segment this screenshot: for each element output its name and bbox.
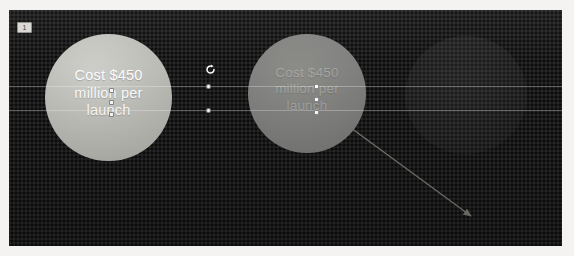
slide-number-badge: 1: [17, 22, 32, 33]
slide-canvas[interactable]: Cost $450 million per launch Cost $450 m…: [9, 10, 562, 246]
text-handle-bottom[interactable]: [109, 112, 114, 117]
cost-ellipse-ghost-text: Cost $450 million per launch: [248, 65, 366, 114]
page-background: Cost $450 million per launch Cost $450 m…: [0, 0, 574, 256]
cost-ellipse-ghost[interactable]: Cost $450 million per launch: [248, 34, 366, 153]
selection-handle-left-bottom[interactable]: [206, 108, 211, 113]
selection-handle-right-bottom[interactable]: [314, 110, 319, 115]
cost-ellipse[interactable]: Cost $450 million per launch: [45, 34, 172, 161]
selection-handle-left-middle[interactable]: [206, 84, 211, 89]
text-handle-top[interactable]: [109, 88, 114, 93]
rotate-handle[interactable]: [205, 64, 216, 75]
selection-handle-right-top[interactable]: [314, 84, 319, 89]
faded-ellipse[interactable]: [405, 36, 527, 154]
text-handle-middle[interactable]: [109, 100, 114, 105]
selection-handle-right-middle[interactable]: [314, 97, 319, 102]
